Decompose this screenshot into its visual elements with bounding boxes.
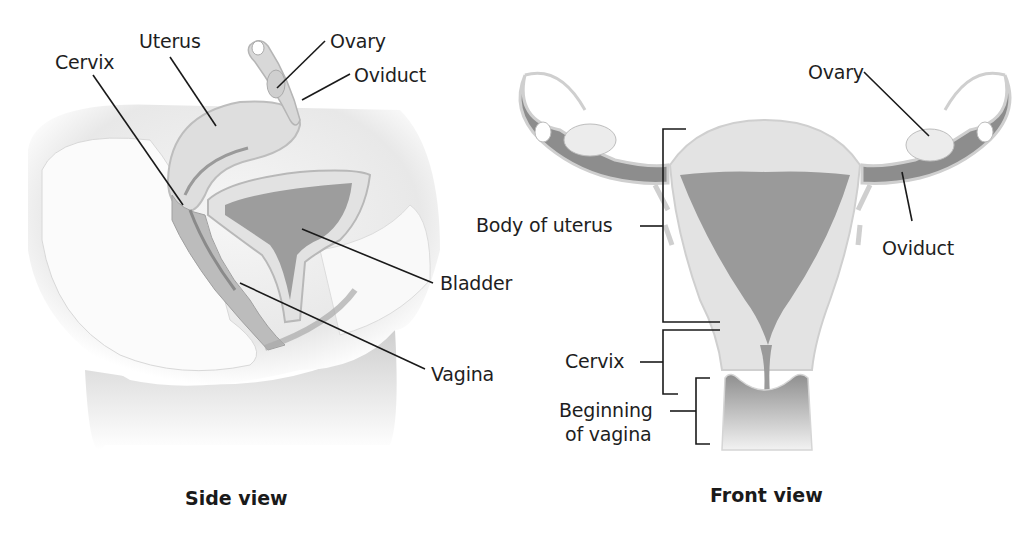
diagram-artwork [0,0,1029,538]
front-label-body-of-uterus: Body of uterus [476,214,613,236]
front-view-caption: Front view [710,484,823,506]
front-label-ovary: Ovary [808,61,864,83]
side-label-ovary: Ovary [330,30,386,52]
front-label-beginning-of-vagina-2: of vagina [565,423,651,445]
front-view-illustration [520,73,1010,450]
side-label-cervix: Cervix [55,51,114,73]
side-view-caption: Side view [185,487,288,509]
side-label-vagina: Vagina [431,363,494,385]
side-view-illustration [28,41,440,450]
front-label-beginning-of-vagina-1: Beginning [559,399,653,421]
side-label-oviduct: Oviduct [354,64,426,86]
anatomy-diagram: Cervix Uterus Ovary Oviduct Bladder Vagi… [0,0,1029,538]
side-label-bladder: Bladder [440,272,512,294]
front-label-cervix: Cervix [565,350,624,372]
front-label-oviduct: Oviduct [882,237,954,259]
side-label-uterus: Uterus [139,30,201,52]
